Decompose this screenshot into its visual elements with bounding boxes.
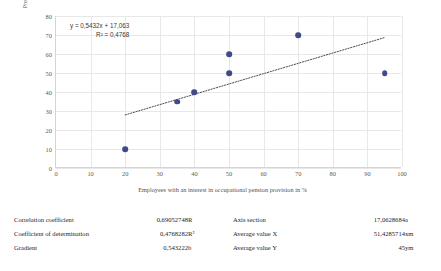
y-axis-title: Proportion of employees with an occupati… bbox=[22, 0, 36, 32]
x-axis-tick-label: 60 bbox=[260, 170, 266, 177]
table-row: Correlation coefficient0,69052748R bbox=[14, 213, 214, 227]
x-axis-tick-label: 30 bbox=[157, 170, 163, 177]
x-axis-tick-label: 0 bbox=[54, 170, 57, 177]
stat-symbol: ym bbox=[405, 241, 431, 255]
table-row: Average value Y45ym bbox=[233, 241, 431, 255]
stat-value: 51,4285714 bbox=[334, 227, 405, 241]
table-row: Coefficient of determination0,4768282R² bbox=[14, 227, 214, 241]
data-point bbox=[226, 70, 232, 76]
gridline-vertical bbox=[402, 16, 403, 167]
x-axis-tick-label: 100 bbox=[397, 170, 407, 177]
stat-value: 45 bbox=[334, 241, 405, 255]
x-axis-tick-label: 50 bbox=[226, 170, 232, 177]
data-point bbox=[174, 99, 180, 105]
statistics-table-left: Correlation coefficient0,69052748RCoeffi… bbox=[14, 213, 214, 254]
x-axis-title: Employees with an interest in occupation… bbox=[44, 186, 401, 193]
stat-value: 17,0628684 bbox=[334, 213, 405, 227]
data-point bbox=[295, 32, 301, 38]
regression-equation: y = 0,5432x + 17,063 bbox=[70, 21, 129, 30]
x-axis-tick-label: 20 bbox=[122, 170, 128, 177]
statistics-tables: Correlation coefficient0,69052748RCoeffi… bbox=[0, 196, 441, 271]
data-point bbox=[226, 51, 232, 57]
stat-symbol: xm bbox=[405, 227, 431, 241]
stat-label: Axis section bbox=[233, 213, 334, 227]
y-axis-tick-label: 0 bbox=[49, 165, 52, 172]
stat-label: Average value X bbox=[233, 227, 334, 241]
data-point bbox=[122, 146, 128, 152]
stat-label: Correlation coefficient bbox=[14, 213, 137, 227]
plot-area: 01020304050607080 0102030405060708090100… bbox=[55, 16, 401, 168]
stat-symbol: R² bbox=[188, 227, 214, 241]
x-axis-tick-label: 40 bbox=[191, 170, 197, 177]
stat-value: 0,543222 bbox=[137, 241, 188, 255]
x-axis-tick-label: 90 bbox=[364, 170, 370, 177]
stat-value: 0,69052748 bbox=[137, 213, 188, 227]
y-axis-tick-label: 10 bbox=[46, 146, 52, 153]
y-axis-tick-label: 80 bbox=[46, 13, 52, 20]
y-axis-tick-label: 50 bbox=[46, 70, 52, 77]
r-squared-value: R² = 0,4768 bbox=[70, 30, 129, 39]
stat-symbol: a bbox=[405, 213, 431, 227]
table-row: Average value X51,4285714xm bbox=[233, 227, 431, 241]
table-row: Axis section17,0628684a bbox=[233, 213, 431, 227]
x-axis-tick-label: 80 bbox=[330, 170, 336, 177]
stat-symbol: R bbox=[188, 213, 214, 227]
regression-annotation: y = 0,5432x + 17,063 R² = 0,4768 bbox=[70, 21, 129, 39]
y-axis-tick-label: 30 bbox=[46, 108, 52, 115]
y-axis-title-line-2: pension before the OSPA in % bbox=[28, 0, 34, 32]
stat-label: Average value Y bbox=[233, 241, 334, 255]
data-point bbox=[192, 89, 198, 95]
x-axis-tick-label: 70 bbox=[295, 170, 301, 177]
gridline-horizontal bbox=[56, 168, 401, 169]
x-axis-tick-label: 10 bbox=[87, 170, 93, 177]
y-axis-tick-label: 70 bbox=[46, 32, 52, 39]
y-axis-tick-label: 20 bbox=[46, 127, 52, 134]
table-row: Gradient0,543222b bbox=[14, 241, 214, 255]
stat-symbol: b bbox=[188, 241, 214, 255]
data-point bbox=[382, 70, 388, 76]
y-axis-tick-label: 60 bbox=[46, 51, 52, 58]
scatter-chart: Proportion of employees with an occupati… bbox=[0, 0, 441, 196]
stat-label: Coefficient of determination bbox=[14, 227, 137, 241]
stat-value: 0,4768282 bbox=[137, 227, 188, 241]
y-axis-tick-label: 40 bbox=[46, 89, 52, 96]
stat-label: Gradient bbox=[14, 241, 137, 255]
statistics-table-right: Axis section17,0628684aAverage value X51… bbox=[233, 213, 431, 254]
